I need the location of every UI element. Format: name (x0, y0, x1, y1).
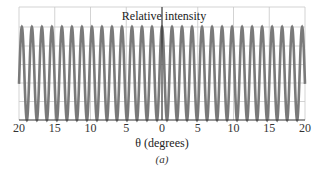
interference-chart: 201510505101520 Relative intensity θ (de… (0, 0, 324, 169)
x-tick-label: 0 (159, 121, 165, 135)
x-tick-label: 10 (85, 121, 97, 135)
x-tick-label: 10 (228, 121, 240, 135)
x-tick-labels: 201510505101520 (13, 121, 311, 135)
x-tick-label: 20 (299, 121, 311, 135)
figure-caption: (a) (156, 153, 169, 166)
y-axis-label: Relative intensity (122, 9, 206, 23)
x-tick-label: 5 (195, 121, 201, 135)
x-tick-label: 15 (263, 121, 275, 135)
x-axis-label: θ (degrees) (135, 136, 188, 150)
x-tick-label: 5 (123, 121, 129, 135)
x-tick-label: 15 (49, 121, 61, 135)
x-tick-label: 20 (13, 121, 25, 135)
